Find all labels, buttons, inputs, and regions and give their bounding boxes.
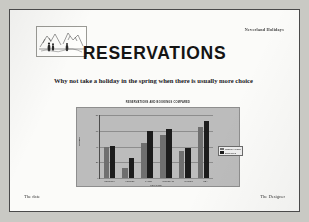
slide-body-text: Why not take a holiday in the spring whe… [54, 76, 258, 85]
bar-group [160, 115, 172, 178]
y-axis-title: NUMBER [78, 137, 80, 146]
y-tick-label: 40 [96, 146, 99, 148]
bar-chart: RESERVATIONS AND BOOKINGS COMPARED 80 60… [76, 101, 240, 194]
bar [204, 121, 209, 178]
bar [141, 143, 146, 178]
x-tick-label: MOUNTAIN [162, 180, 174, 182]
bar [110, 146, 115, 178]
bar-group [198, 115, 210, 178]
bar [129, 158, 134, 178]
gridline: 0 [100, 178, 213, 179]
bar [198, 127, 203, 178]
bar [160, 135, 165, 178]
legend-swatch-icon [220, 148, 223, 150]
bar [147, 131, 152, 178]
x-tick-label: COUNTRY [104, 180, 115, 182]
chart-legend: RESERVATIONS BOOKINGS [218, 146, 243, 156]
page-title: RESERVATIONS [21, 43, 288, 64]
legend-label: BOOKINGS [225, 152, 236, 154]
legend-item: BOOKINGS [220, 151, 241, 153]
legend-item: RESERVATIONS [220, 148, 241, 150]
chart-title: RESERVATIONS AND BOOKINGS COMPARED [76, 101, 240, 104]
x-tick-label: FOREST [126, 180, 135, 182]
y-tick-label: 80 [96, 114, 99, 116]
bar-groups [100, 115, 213, 178]
brand-label: Neverland Holidays [245, 27, 284, 32]
bar [179, 151, 184, 178]
bar [104, 147, 109, 179]
y-tick-label: 60 [96, 130, 99, 132]
bar [122, 168, 127, 178]
bar-group [104, 115, 116, 178]
footer-date: The date [24, 194, 40, 199]
scanned-slide-page: Neverland Holidays RESERVATIONS Why not … [9, 9, 300, 212]
x-tick-label: SEA [203, 180, 207, 182]
x-tick-label: RIVERS [185, 180, 193, 182]
legend-swatch-icon [220, 151, 223, 153]
bar-group [179, 115, 191, 178]
x-axis-labels: COUNTRYFORESTLAKESMOUNTAINRIVERSSEA [99, 180, 213, 182]
x-axis-title: LOCATION [99, 184, 213, 186]
x-tick-label: LAKES [145, 180, 152, 182]
bar [185, 148, 190, 178]
bar-group [141, 115, 153, 178]
legend-label: RESERVATIONS [225, 148, 241, 150]
y-tick-label: 0 [97, 177, 98, 179]
y-tick-label: 20 [96, 161, 99, 163]
chart-plot-area: 80 60 40 20 0 [99, 115, 213, 179]
footer-designer: The Designer [260, 194, 285, 199]
chart-plot-frame: 80 60 40 20 0 NUMBER COUNTRYFORESTLAKESM… [76, 107, 240, 187]
slide-content: Neverland Holidays RESERVATIONS Why not … [21, 17, 288, 203]
bar [166, 129, 171, 178]
bar-group [122, 115, 134, 178]
screenshot-canvas: Neverland Holidays RESERVATIONS Why not … [0, 0, 309, 222]
